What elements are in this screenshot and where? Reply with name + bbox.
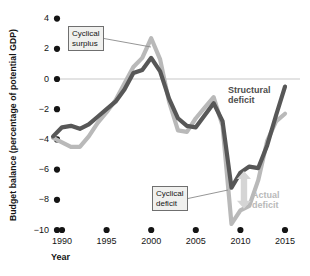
y-tick-label: −4: [27, 134, 49, 144]
structural-deficit-label: Structural deficit: [228, 85, 271, 105]
x-tick-label: 1995: [87, 236, 127, 246]
y-tick-label: −8: [27, 194, 49, 204]
x-axis-title: Year: [51, 252, 70, 262]
chart-container: Budget balance (percentage of potential …: [0, 0, 310, 276]
x-tick-label: 1990: [42, 236, 82, 246]
x-tick-label: 2005: [176, 236, 216, 246]
y-tick-label: 0: [27, 74, 49, 84]
x-axis-tick-markers: [59, 227, 288, 233]
cyclical-deficit-gap-arrow: [237, 171, 251, 209]
y-axis-title: Budget balance (percentage of potential …: [8, 20, 18, 230]
actual-deficit-label: Actual deficit: [252, 190, 280, 210]
annotation-cyclical-deficit: Cyclical deficit: [152, 186, 188, 211]
chart-title: [0, 0, 310, 5]
x-tick-label: 2000: [131, 236, 171, 246]
x-tick-label: 2010: [220, 236, 260, 246]
y-tick-label: −2: [27, 104, 49, 114]
y-tick-label: −10: [27, 225, 49, 235]
y-tick-label: 2: [27, 43, 49, 53]
y-tick-label: 4: [27, 13, 49, 23]
series-line-structural-deficit: [53, 58, 285, 188]
annotation-leader-lines: [104, 39, 228, 199]
y-axis-tick-markers: [54, 16, 60, 234]
x-tick-label: 2015: [265, 236, 305, 246]
annotation-cyclical-surplus: Cyclical surplus: [68, 26, 104, 51]
y-tick-label: −6: [27, 164, 49, 174]
